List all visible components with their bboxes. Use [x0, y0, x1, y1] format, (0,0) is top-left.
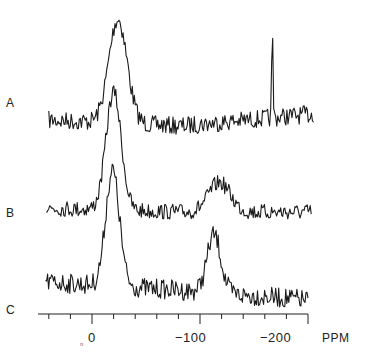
tick-label-minus-100: −100 [175, 330, 206, 345]
footnote-mark: ⁿ [80, 340, 83, 350]
series-label-b: B [6, 206, 14, 220]
tick-label-minus-200: −200 [260, 330, 291, 345]
spectrum-trace-b [47, 86, 312, 219]
nmr-spectra-chart [0, 0, 383, 358]
x-axis-unit-label: PPM [322, 331, 350, 345]
spectrum-trace-a [49, 20, 314, 134]
series-label-a: A [6, 96, 14, 110]
series-label-c: C [6, 303, 15, 317]
tick-label-0: 0 [88, 330, 96, 345]
x-axis-ticks [49, 314, 308, 324]
spectrum-trace-c [46, 164, 308, 307]
